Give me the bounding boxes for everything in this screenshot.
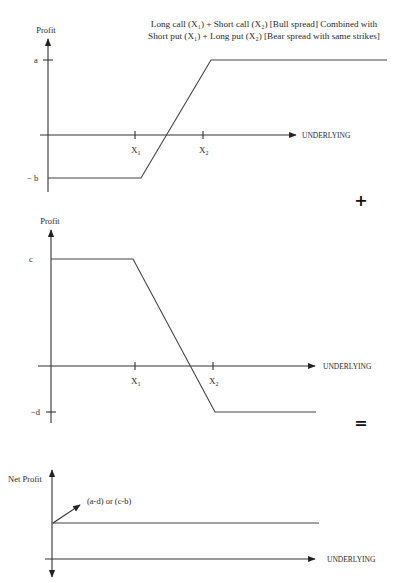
x-tick-label-x1: X1 bbox=[131, 376, 141, 387]
chart-bear-spread: Profit UNDERLYING c −d X1 X2 bbox=[29, 216, 372, 423]
title-line-2: Short put (X₁) + Long put (X₂) [Bear spr… bbox=[148, 31, 380, 41]
x-axis-label: UNDERLYING bbox=[323, 362, 372, 371]
y-axis-label: Net Profit bbox=[8, 474, 42, 484]
plus-operator: + bbox=[354, 191, 367, 210]
y-tick-label-a: a bbox=[34, 55, 38, 65]
y-axis-label: Profit bbox=[36, 25, 56, 35]
x-tick-label-x2: X2 bbox=[199, 145, 209, 156]
y-tick-label-c: c bbox=[29, 254, 33, 264]
x-axis-label: UNDERLYING bbox=[302, 131, 351, 140]
x-tick-label-x2: X2 bbox=[209, 376, 219, 387]
y-axis-label: Profit bbox=[40, 216, 60, 226]
x-axis-label: UNDERLYING bbox=[327, 555, 376, 564]
chart-bull-spread: Profit UNDERLYING a − b X1 X2 bbox=[27, 25, 387, 192]
bull-spread-payoff-line bbox=[48, 60, 387, 178]
equals-operator: = bbox=[354, 413, 367, 432]
chart-net-profit: Net Profit UNDERLYING (a-d) or (c-b) bbox=[8, 470, 376, 577]
title-line-1: Long call (X₁) + Short call (X₂) [Bull s… bbox=[151, 19, 378, 29]
annotation-label: (a-d) or (c-b) bbox=[87, 496, 132, 506]
box-spread-diagram: Long call (X₁) + Short call (X₂) [Bull s… bbox=[0, 0, 407, 583]
bear-spread-payoff-line bbox=[51, 259, 316, 412]
y-tick-label-minus-d: −d bbox=[31, 407, 41, 417]
annotation-arrow bbox=[53, 505, 80, 523]
x-tick-label-x1: X1 bbox=[131, 145, 141, 156]
y-tick-label-minus-b: − b bbox=[27, 173, 38, 183]
